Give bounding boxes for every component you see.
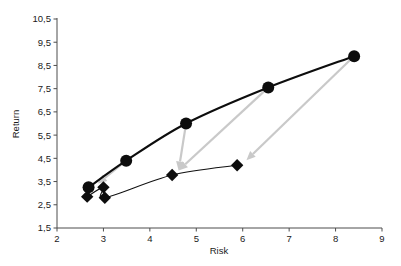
x-tick-label: 6 [240,233,245,244]
series-lines-group [87,56,354,198]
annotation-arrows-group [98,60,350,183]
y-tick-label: 7,5 [38,83,51,94]
data-point-diamond [231,159,243,171]
y-tick-label: 4,5 [38,153,51,164]
x-axis-title: Risk [210,245,229,256]
risk-return-chart: 1,52,53,54,55,56,57,58,59,510,523456789 … [0,0,401,266]
x-tick-label: 8 [333,233,338,244]
data-point-diamond [166,169,178,181]
y-tick-label: 8,5 [38,60,51,71]
series-markers-group [81,50,360,204]
chart-canvas: 1,52,53,54,55,56,57,58,59,510,523456789 … [0,0,401,266]
y-tick-label: 3,5 [38,176,51,187]
x-tick-label: 3 [101,233,106,244]
y-tick-label: 2,5 [38,199,51,210]
data-point-circle [180,118,192,130]
data-point-circle [120,155,132,167]
tick-labels-group: 1,52,53,54,55,56,57,58,59,510,523456789 [33,13,385,244]
x-tick-label: 5 [194,233,199,244]
series-line-diamond-series [87,165,237,198]
y-tick-label: 5,5 [38,130,51,141]
x-tick-label: 2 [54,233,59,244]
y-tick-label: 1,5 [38,222,51,233]
data-point-circle [83,181,95,193]
x-tick-label: 9 [379,233,384,244]
x-tick-label: 4 [147,233,152,244]
data-point-circle [262,82,274,94]
y-tick-label: 6,5 [38,106,51,117]
data-point-circle [348,50,360,62]
y-tick-label: 9,5 [38,37,51,48]
x-tick-label: 7 [286,233,291,244]
y-axis-title: Return [10,110,21,139]
arrow-shaft [180,129,185,161]
y-tick-label: 10,5 [33,13,52,24]
